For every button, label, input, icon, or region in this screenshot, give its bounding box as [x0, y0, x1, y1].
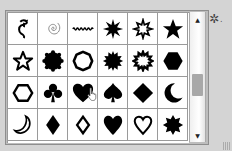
ornament-icon	[12, 18, 34, 40]
shape-hexagon-filled[interactable]	[158, 45, 188, 77]
star-filled-icon	[162, 18, 184, 40]
shape-scalloped-circle-filled[interactable]	[38, 45, 68, 77]
crescent-moon-outline-icon	[12, 114, 34, 136]
shape-heart-filled[interactable]	[68, 77, 98, 109]
diamond-icon	[132, 82, 154, 104]
seal-icon	[102, 50, 124, 72]
shape-diamond-filled[interactable]	[128, 77, 158, 109]
shape-crescent-moon-filled[interactable]	[158, 77, 188, 109]
diamond-suit-outline-icon	[72, 114, 94, 136]
shape-star-5-outline[interactable]	[8, 45, 38, 77]
gear-icon: ✲	[209, 12, 219, 26]
club-icon	[42, 82, 64, 104]
shape-spiral[interactable]	[38, 13, 68, 45]
shape-starburst-outline[interactable]	[128, 13, 158, 45]
wavy-line-icon	[72, 18, 94, 40]
scalloped-circle-icon	[42, 50, 64, 72]
shape-octagram-filled[interactable]	[158, 109, 188, 141]
heart-icon-2	[102, 114, 124, 136]
spiral-icon	[42, 18, 64, 40]
scroll-thumb[interactable]	[192, 74, 203, 96]
shape-club[interactable]	[38, 77, 68, 109]
shape-wavy-line[interactable]	[68, 13, 98, 45]
shape-heart-outline[interactable]	[128, 109, 158, 141]
spade-icon	[102, 82, 124, 104]
shape-ornament[interactable]	[8, 13, 38, 45]
starburst-icon	[102, 18, 124, 40]
settings-menu-button[interactable]: ✲ .	[209, 12, 229, 26]
shape-grid	[7, 12, 189, 143]
hexagon-icon	[162, 50, 184, 72]
shape-spade[interactable]	[98, 77, 128, 109]
scroll-up-arrow-icon[interactable]: ▲	[190, 12, 205, 26]
shape-scalloped-circle-outline[interactable]	[68, 45, 98, 77]
seal-outline-icon	[132, 50, 154, 72]
octagram-icon	[162, 114, 184, 136]
heart-icon	[72, 82, 94, 104]
diamond-suit-icon	[42, 114, 64, 136]
shape-diamond-suit-outline[interactable]	[68, 109, 98, 141]
starburst-outline-icon	[132, 18, 154, 40]
heart-outline-icon	[132, 114, 154, 136]
shape-diamond-suit-filled[interactable]	[38, 109, 68, 141]
vertical-scrollbar[interactable]: ▲ ▼	[189, 12, 206, 142]
scalloped-circle-outline-icon	[72, 50, 94, 72]
menu-indicator: .	[220, 15, 223, 24]
scroll-down-arrow-icon[interactable]: ▼	[190, 128, 205, 142]
shape-hexagon-outline[interactable]	[8, 77, 38, 109]
shape-seal-outline[interactable]	[128, 45, 158, 77]
hexagon-outline-icon	[12, 82, 34, 104]
shape-star-5-filled[interactable]	[158, 13, 188, 45]
shape-seal-filled[interactable]	[98, 45, 128, 77]
resize-grip[interactable]	[223, 142, 231, 150]
crescent-moon-icon	[162, 82, 184, 104]
shape-starburst-12[interactable]	[98, 13, 128, 45]
shape-heart-filled-2[interactable]	[98, 109, 128, 141]
shape-crescent-moon-outline[interactable]	[8, 109, 38, 141]
star-outline-icon	[12, 50, 34, 72]
